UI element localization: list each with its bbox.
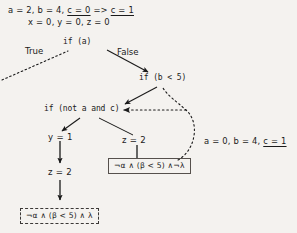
- top-state-prefix: a = 2, b = 4,: [8, 5, 67, 15]
- formula-box-dashed: ¬α ∧ (β < 5) ∧ λ: [20, 208, 99, 224]
- edge-not-a-and-c-true: [62, 118, 80, 131]
- diagram-edges: [0, 0, 297, 233]
- edge-counterexample-loop: [163, 88, 194, 160]
- edge-if-b-true: [125, 87, 157, 104]
- node-assign-z2-middle: z = 2: [122, 136, 146, 145]
- node-if-not-a-and-c: if (not a and c): [44, 105, 119, 113]
- formula-box-solid: ¬α ∧ (β < 5) ∧¬λ: [108, 158, 191, 174]
- node-if-b-lt-5: if (b < 5): [139, 74, 186, 82]
- edge-not-a-and-c-false: [99, 118, 133, 135]
- side-state-c1: c = 1: [263, 136, 286, 146]
- top-state-c0: c = 0: [67, 5, 90, 15]
- control-flow-diagram: a = 2, b = 4, c = 0 => c = 1 x = 0, y = …: [0, 0, 297, 233]
- node-assign-z2-left: z = 2: [48, 168, 72, 177]
- top-state-arrow: =>: [91, 5, 111, 15]
- top-state-c1: c = 1: [111, 5, 134, 15]
- top-state-line1: a = 2, b = 4, c = 0 => c = 1: [8, 6, 134, 14]
- node-if-a: if (a): [63, 38, 91, 46]
- edge-label-true: True: [25, 47, 43, 56]
- edge-label-false: False: [117, 48, 139, 57]
- side-state-prefix: a = 0, b = 4,: [204, 136, 263, 146]
- side-state: a = 0, b = 4, c = 1: [204, 137, 287, 145]
- node-assign-y1: y = 1: [48, 133, 73, 142]
- top-state-line2: x = 0, y = 0, z = 0: [28, 18, 110, 26]
